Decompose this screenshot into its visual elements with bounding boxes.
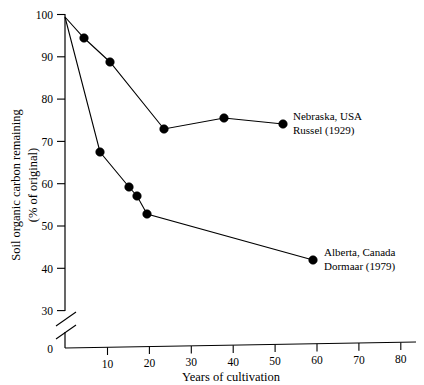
y-tick-label-70: 70 — [42, 136, 54, 148]
series-nebraska-label-line2: Russel (1929) — [293, 124, 355, 137]
x-axis-title: Years of cultivation — [182, 370, 281, 384]
data-point — [220, 114, 229, 123]
series-alberta-label-line2: Dormaar (1979) — [324, 260, 396, 273]
data-point — [160, 125, 169, 134]
x-tick-label-50: 50 — [269, 355, 281, 367]
data-point — [133, 192, 142, 201]
data-point — [309, 256, 318, 265]
y-tick-label-40: 40 — [42, 263, 54, 275]
x-axis: 10 20 30 40 50 60 70 80 — [65, 342, 416, 370]
x-axis-line — [65, 342, 416, 348]
y-tick-label-30: 30 — [42, 305, 54, 317]
series-nebraska-line — [65, 17, 283, 129]
y-axis-break-icon — [56, 312, 76, 339]
series-nebraska-label-line1: Nebraska, USA — [293, 110, 362, 122]
y-tick-label-90: 90 — [42, 51, 54, 63]
y-axis-title-line1: Soil organic carbon remaining — [9, 109, 23, 261]
x-tick-label-20: 20 — [144, 357, 156, 369]
x-tick-label-10: 10 — [102, 358, 114, 370]
x-tick-label-60: 60 — [311, 354, 323, 366]
y-tick-label-0: 0 — [47, 343, 53, 355]
y-tick-label-100: 100 — [36, 9, 54, 21]
series-alberta-label-line1: Alberta, Canada — [324, 246, 396, 258]
y-tick-label-50: 50 — [42, 220, 54, 232]
x-tick-label-70: 70 — [353, 354, 365, 366]
x-tick-label-80: 80 — [395, 353, 407, 365]
data-point — [125, 183, 134, 192]
series-nebraska: Nebraska, USA Russel (1929) — [65, 17, 362, 137]
soil-carbon-line-chart: 100 90 80 70 60 50 40 30 0 10 — [0, 0, 424, 385]
y-tick-label-60: 60 — [42, 178, 54, 190]
x-tick-label-30: 30 — [186, 356, 198, 368]
x-tick-label-40: 40 — [227, 356, 239, 368]
y-axis-title: Soil organic carbon remaining (% of orig… — [9, 109, 40, 261]
y-tick-label-80: 80 — [42, 93, 54, 105]
series-alberta: Alberta, Canada Dormaar (1979) — [65, 17, 396, 273]
data-point — [143, 210, 152, 219]
data-point — [279, 120, 288, 129]
data-point — [96, 148, 105, 157]
series-alberta-line — [65, 17, 313, 260]
y-axis-title-line2: (% of original) — [26, 148, 40, 222]
data-point — [80, 34, 89, 43]
y-axis: 100 90 80 70 60 50 40 30 0 — [36, 9, 65, 355]
data-point — [106, 58, 115, 67]
